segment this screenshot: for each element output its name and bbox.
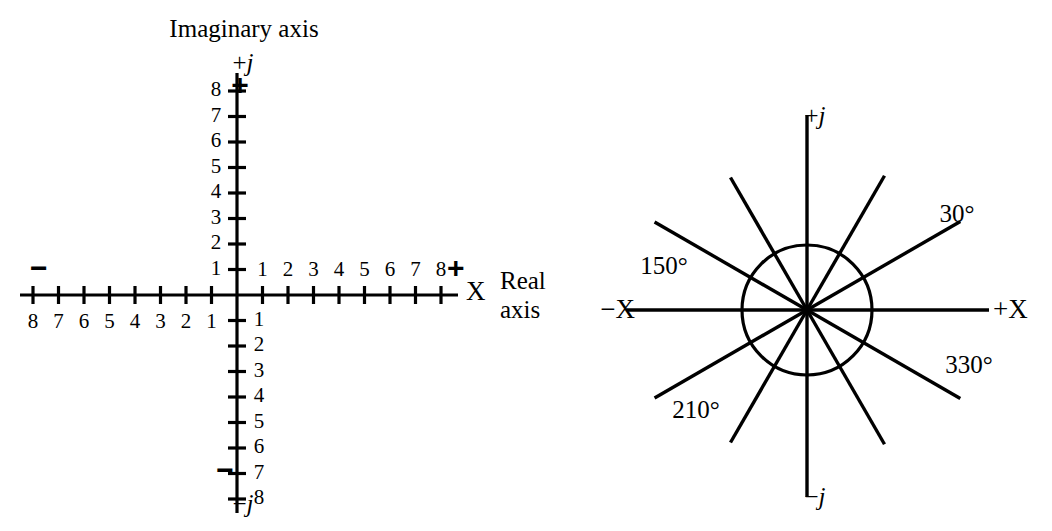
y-tick-label-neg-4: 4 (254, 385, 265, 406)
negative-j-text: −j (232, 490, 253, 517)
angle-label-30: 30° (940, 201, 975, 226)
y-tick-label-pos-7: 7 (211, 105, 222, 126)
y-tick-label-pos-3: 3 (211, 207, 222, 228)
x-tick-label-neg-1: 1 (206, 311, 217, 332)
x-tick-label-neg-2: 2 (181, 311, 192, 332)
real-axis-title-line2: axis (500, 297, 540, 322)
negative-j-label-left: −j (232, 491, 253, 516)
real-axis-minus-sign: − (30, 253, 48, 283)
y-tick-label-pos-8: 8 (211, 79, 222, 100)
x-tick-label-pos-6: 6 (385, 259, 396, 280)
phasor-star-group (627, 115, 989, 497)
x-tick-label-neg-8: 8 (28, 311, 39, 332)
angle-label-210: 210° (672, 397, 720, 422)
ray-240deg (731, 310, 808, 443)
figure-canvas (0, 0, 1052, 531)
x-tick-label-pos-3: 3 (308, 259, 319, 280)
imaginary-axis-plus-sign: + (231, 70, 249, 100)
y-tick-label-pos-5: 5 (211, 156, 222, 177)
x-tick-label-neg-7: 7 (53, 311, 64, 332)
x-tick-label-pos-4: 4 (334, 259, 345, 280)
y-tick-label-neg-5: 5 (254, 411, 265, 432)
x-tick-label-neg-6: 6 (79, 311, 90, 332)
real-axis-plus-sign: + (447, 253, 465, 283)
x-tick-label-neg-3: 3 (155, 311, 166, 332)
y-tick-label-pos-4: 4 (211, 181, 222, 202)
x-tick-label-pos-7: 7 (410, 259, 421, 280)
ray-330deg (807, 310, 960, 399)
y-tick-label-neg-8: 8 (254, 487, 265, 508)
ray-30deg (807, 222, 960, 311)
y-tick-label-pos-6: 6 (211, 130, 222, 151)
x-tick-label-pos-5: 5 (359, 259, 370, 280)
negative-j-text-right: −j (804, 483, 825, 510)
origin-dot (802, 305, 812, 315)
x-tick-label-neg-5: 5 (104, 311, 115, 332)
x-tick-label-pos-2: 2 (283, 259, 294, 280)
ray-300deg (807, 310, 885, 444)
y-tick-label-neg-7: 7 (254, 462, 265, 483)
ray-120deg (731, 177, 808, 310)
negative-x-axis-label: −X (600, 296, 635, 323)
negative-j-label-right: −j (804, 484, 825, 509)
imaginary-axis-title: Imaginary axis (169, 16, 318, 41)
y-tick-label-pos-2: 2 (211, 232, 222, 253)
y-tick-label-pos-1: 1 (211, 258, 222, 279)
figure-root: Imaginary axis +j + − −j − + X Real axis… (0, 0, 1052, 531)
angle-label-330: 330° (945, 352, 993, 377)
x-axis-letter: X (466, 278, 486, 305)
x-tick-label-neg-4: 4 (130, 311, 141, 332)
x-tick-label-pos-1: 1 (257, 259, 268, 280)
complex-plane-axes-group (20, 73, 458, 513)
positive-x-axis-label: +X (993, 296, 1028, 323)
angle-label-150: 150° (640, 253, 688, 278)
positive-j-label-right: +j (804, 103, 825, 128)
y-tick-label-neg-1: 1 (254, 309, 265, 330)
real-axis-title-line1: Real (500, 268, 546, 293)
y-tick-label-neg-2: 2 (254, 334, 265, 355)
imaginary-axis-minus-sign: − (216, 455, 234, 485)
y-tick-label-neg-6: 6 (254, 436, 265, 457)
ray-210deg (655, 310, 807, 398)
x-tick-label-pos-8: 8 (436, 259, 447, 280)
ray-60deg (807, 176, 885, 310)
positive-j-text-right: +j (804, 102, 825, 129)
y-tick-label-neg-3: 3 (254, 360, 265, 381)
